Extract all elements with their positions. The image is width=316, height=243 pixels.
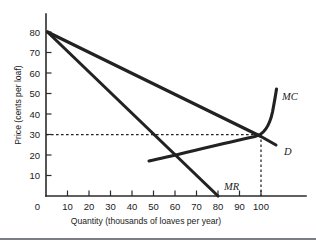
x-tick-label: 20 (84, 201, 95, 212)
marginal-revenue-curve-label: MR (223, 181, 240, 192)
y-tick-label: 20 (29, 150, 40, 161)
x-tick-label: 90 (234, 201, 245, 212)
demand-curve-label: D (283, 146, 292, 157)
x-tick-label: 80 (213, 201, 224, 212)
x-tick-label: 100 (253, 201, 269, 212)
monopoly-price-quantity-chart: 80 70 60 50 40 30 20 10 0 10 20 30 40 50… (0, 0, 316, 243)
x-tick-labels: 10 20 30 40 50 60 70 80 90 100 (62, 201, 269, 212)
marginal-cost-curve-label: MC (281, 91, 299, 102)
y-axis-ticks (46, 32, 52, 176)
chart-canvas: 80 70 60 50 40 30 20 10 0 10 20 30 40 50… (0, 0, 316, 243)
marginal-cost-curve (149, 89, 277, 161)
y-tick-label: 70 (29, 47, 40, 58)
y-tick-label: 50 (29, 88, 40, 99)
x-tick-label: 70 (191, 201, 202, 212)
y-tick-labels: 80 70 60 50 40 30 20 10 0 (29, 27, 40, 213)
y-tick-label-zero: 0 (35, 201, 40, 212)
demand-curve (48, 32, 277, 145)
x-tick-label: 30 (105, 201, 116, 212)
x-tick-label: 40 (127, 201, 138, 212)
y-axis-title: Price (cents per loaf) (13, 65, 23, 144)
y-tick-label: 40 (29, 109, 40, 120)
x-tick-label: 50 (148, 201, 159, 212)
bottom-divider (0, 238, 316, 240)
y-tick-label: 60 (29, 68, 40, 79)
x-tick-label: 60 (170, 201, 181, 212)
y-tick-label: 80 (29, 27, 40, 38)
y-tick-label: 10 (29, 170, 40, 181)
x-tick-label: 10 (62, 201, 73, 212)
x-axis-title: Quantity (thousands of loaves per year) (71, 216, 222, 226)
y-tick-label: 30 (29, 129, 40, 140)
marginal-revenue-curve (48, 32, 219, 196)
